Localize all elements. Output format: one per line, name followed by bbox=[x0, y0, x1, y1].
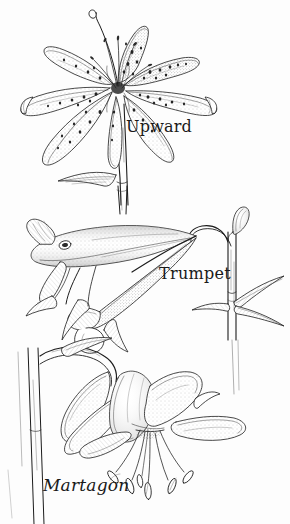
figure-label-upward: Upward bbox=[126, 119, 192, 135]
figure-upward bbox=[21, 10, 217, 205]
martagon-bract bbox=[61, 337, 112, 356]
figure-trumpet bbox=[26, 186, 284, 353]
figure-label-trumpet: Trumpet bbox=[159, 266, 231, 282]
martagon-stem bbox=[28, 348, 44, 524]
trumpet-upper-stem bbox=[118, 186, 127, 214]
figure-martagon bbox=[8, 337, 246, 524]
martagon-stem-secondary bbox=[18, 352, 22, 466]
upward-leaf bbox=[58, 172, 116, 186]
trumpet-right-stem bbox=[228, 232, 236, 340]
martagon-petals bbox=[61, 371, 246, 458]
figure-label-martagon: Martagon bbox=[43, 477, 129, 494]
trumpet-bud bbox=[228, 207, 249, 240]
trumpet-stem-leaves bbox=[192, 276, 284, 326]
martagon-background-stem bbox=[232, 340, 239, 394]
illustration-plate: Upward Trumpet Martagon bbox=[0, 0, 290, 524]
lily-forms-drawing bbox=[0, 0, 290, 524]
